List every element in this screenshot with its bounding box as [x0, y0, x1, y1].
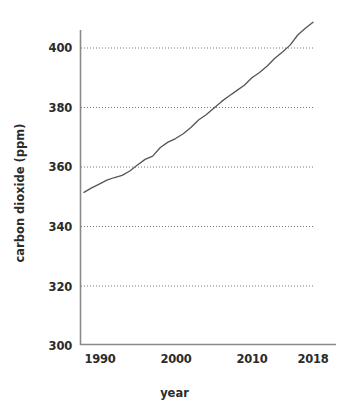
x-tick-label-1990: 1990 — [76, 352, 124, 366]
y-tick-label-380: 380 — [28, 101, 72, 115]
y-axis-title: carbon dioxide (ppm) — [13, 103, 27, 283]
x-axis-title: year — [0, 386, 349, 400]
y-tick-label-360: 360 — [28, 160, 72, 174]
x-tick-label-2018: 2018 — [289, 352, 337, 366]
y-tick-label-340: 340 — [28, 220, 72, 234]
x-tick-label-2000: 2000 — [152, 352, 200, 366]
y-tick-label-400: 400 — [28, 41, 72, 55]
y-tick-label-320: 320 — [28, 280, 72, 294]
chart-figure: carbon dioxide (ppm) 400 380 360 340 320… — [0, 0, 349, 412]
x-tick-label-2010: 2010 — [228, 352, 276, 366]
gridlines-group — [81, 48, 313, 286]
y-tick-label-300: 300 — [28, 339, 72, 353]
